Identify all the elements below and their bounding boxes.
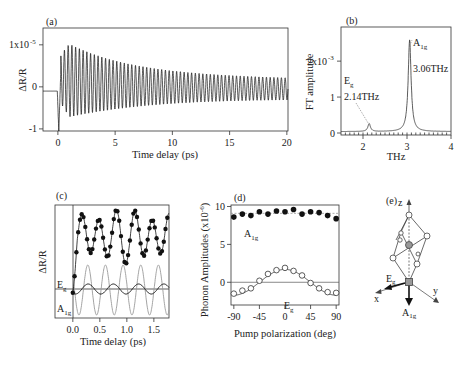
z-axis-label: z bbox=[398, 197, 403, 208]
x-tick-label: 10 bbox=[167, 137, 177, 148]
data-point bbox=[108, 244, 112, 248]
panel-c-a1g-label: A1g bbox=[57, 303, 72, 317]
data-point bbox=[165, 216, 169, 220]
panel-e: (e) z x y Eg A1g bbox=[374, 195, 439, 320]
a1g-data-point bbox=[274, 208, 280, 214]
eg-arrow-icon bbox=[384, 284, 392, 290]
panel-d-ylabel: Phonon Amplitudes (x10-6) bbox=[198, 202, 211, 317]
data-point bbox=[76, 230, 80, 234]
eg-data-point bbox=[291, 268, 297, 274]
y-tick-label: 1 bbox=[330, 92, 335, 103]
panel-b-a1g-label: A1g bbox=[413, 37, 428, 51]
data-point bbox=[151, 219, 155, 223]
eg-data-point bbox=[274, 267, 280, 273]
data-point bbox=[135, 215, 139, 219]
panel-a-ylabel: ΔR/R bbox=[17, 68, 28, 92]
panel-b-spectrum-line bbox=[341, 40, 451, 132]
y-tick-label: 0 bbox=[330, 128, 335, 139]
data-point bbox=[101, 236, 105, 240]
eg-data-point bbox=[333, 290, 339, 296]
x-tick-label: 2 bbox=[361, 141, 366, 152]
panel-b-a1g-freq: 3.06THz bbox=[413, 63, 449, 74]
z-arrow-icon bbox=[407, 199, 412, 205]
data-point bbox=[78, 218, 82, 222]
panel-b-a1g-leader-line bbox=[411, 40, 412, 43]
x-tick-label: 0.5 bbox=[94, 324, 107, 335]
data-point bbox=[92, 237, 96, 241]
x-tick-label: 1.0 bbox=[121, 324, 134, 335]
x-tick-label: 0.0 bbox=[67, 324, 80, 335]
data-point bbox=[138, 241, 142, 245]
eg-data-point bbox=[257, 278, 263, 284]
panel-a-label: (a) bbox=[46, 16, 57, 28]
data-point bbox=[85, 237, 89, 241]
atom-open bbox=[398, 238, 402, 242]
eg-data-point bbox=[282, 265, 288, 271]
y-tick-label: -1 bbox=[29, 123, 37, 134]
panel-c-ylabel: ΔR/R bbox=[37, 250, 48, 274]
panel-b-frame bbox=[341, 27, 451, 135]
y-tick-exponent: -3 bbox=[328, 54, 334, 62]
y-tick-exponent: -5 bbox=[30, 38, 36, 46]
eg-data-point bbox=[240, 288, 246, 294]
atom-open bbox=[416, 252, 420, 256]
panel-b-eg-label: Eg bbox=[344, 75, 354, 89]
data-point bbox=[128, 238, 132, 242]
y-tick-label: 10 bbox=[215, 201, 225, 212]
a1g-data-point bbox=[257, 209, 263, 215]
data-point bbox=[117, 219, 121, 223]
panel-b-label: (b) bbox=[346, 15, 358, 27]
panel-c-eg-label: Eg bbox=[57, 279, 67, 293]
atom-gray-center bbox=[406, 242, 413, 249]
atom-gray-bottom bbox=[406, 279, 413, 286]
a1g-data-point bbox=[240, 211, 246, 217]
panel-e-label: (e) bbox=[386, 195, 397, 207]
panel-b-eg-leader-line bbox=[356, 103, 368, 123]
data-point bbox=[137, 227, 141, 231]
data-point bbox=[90, 247, 94, 251]
panel-b-xlabel: THz bbox=[387, 151, 406, 162]
data-point bbox=[115, 209, 119, 213]
data-point bbox=[121, 250, 125, 254]
data-point bbox=[106, 253, 110, 257]
panel-a: (a) 05101520 1x10-50-1 Time delay (ps) Δ… bbox=[9, 16, 292, 161]
eg-data-point bbox=[265, 271, 271, 277]
data-point bbox=[163, 227, 167, 231]
a1g-data-point bbox=[299, 211, 305, 217]
y-tick-label: 5 bbox=[220, 239, 225, 250]
atom-open bbox=[414, 261, 420, 267]
y-tick-label: 0 bbox=[32, 81, 37, 92]
data-point bbox=[119, 234, 123, 238]
data-point bbox=[142, 254, 146, 258]
data-point bbox=[133, 209, 137, 213]
panel-c: (c) 0.00.51.01.5 Eg A1g Time delay (ps) … bbox=[37, 190, 170, 348]
x-tick-label: 15 bbox=[225, 137, 235, 148]
data-point bbox=[112, 217, 116, 221]
a1g-data-point bbox=[333, 216, 339, 222]
data-point bbox=[94, 226, 98, 230]
eg-data-point bbox=[325, 289, 331, 295]
eg-data-point bbox=[316, 286, 322, 292]
y-axis-label: y bbox=[433, 285, 438, 296]
a1g-data-point bbox=[316, 210, 322, 216]
a1g-arrow-icon bbox=[405, 298, 413, 306]
data-point bbox=[147, 226, 151, 230]
data-point bbox=[74, 250, 78, 254]
eg-data-point bbox=[299, 273, 305, 279]
x-tick-label: 20 bbox=[282, 137, 292, 148]
data-point bbox=[130, 223, 134, 227]
y-arrow-icon bbox=[433, 297, 439, 303]
data-point bbox=[160, 249, 164, 253]
eg-mode-label: Eg bbox=[386, 273, 396, 286]
a1g-data-point bbox=[291, 207, 297, 213]
data-point bbox=[144, 248, 148, 252]
atom-open bbox=[390, 255, 396, 261]
x-tick-label: 0 bbox=[55, 137, 60, 148]
y-axis-line bbox=[409, 282, 436, 301]
data-point bbox=[153, 225, 157, 229]
a1g-data-point bbox=[231, 214, 237, 220]
a1g-data-point bbox=[282, 209, 288, 215]
y-tick-label: 0 bbox=[220, 277, 225, 288]
panel-d-xlabel: Pump polarization (deg) bbox=[234, 328, 337, 340]
x-tick-label: -90 bbox=[227, 311, 240, 322]
